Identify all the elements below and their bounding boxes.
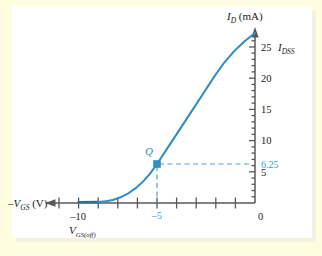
chart-svg: ID (mA) IDSS –VGS (V) VGS(off) 5 10 15 2… — [0, 0, 322, 256]
q-point-guides — [157, 164, 252, 203]
q-point-marker — [153, 160, 161, 168]
q-point-x-value-label: –5 — [151, 210, 162, 221]
q-point-y-value-label: 6.25 — [261, 159, 279, 170]
vgs-off-label: VGS(off) — [69, 224, 96, 239]
idss-label: IDSS — [277, 41, 295, 56]
figure-container: ID (mA) IDSS –VGS (V) VGS(off) 5 10 15 2… — [0, 0, 322, 256]
y-tick-label-15: 15 — [261, 104, 272, 115]
transfer-curve — [98, 33, 255, 202]
y-tick-label-25: 25 — [261, 42, 272, 53]
y-tick-label-10: 10 — [261, 135, 272, 146]
x-axis-label: –VGS (V) — [7, 197, 48, 212]
y-tick-label-20: 20 — [261, 73, 272, 84]
x-axis — [45, 199, 255, 206]
x-tick-label-minus10: –10 — [69, 211, 86, 222]
q-point-label: Q — [145, 145, 153, 157]
origin-label: 0 — [258, 211, 263, 222]
y-axis-label: ID (mA) — [226, 10, 263, 25]
